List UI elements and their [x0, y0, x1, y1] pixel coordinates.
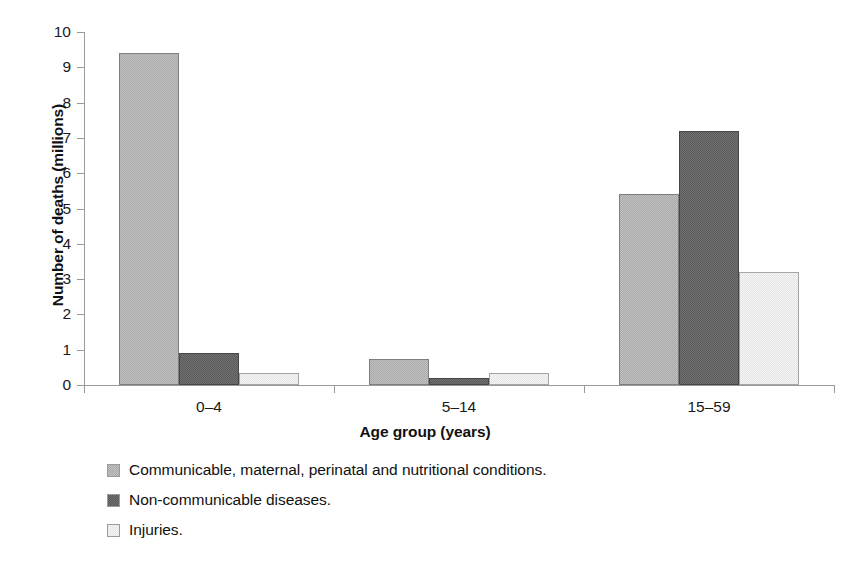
legend-swatch-icon	[107, 494, 120, 507]
legend-label: Injuries.	[129, 521, 183, 539]
y-tick-label: 6	[31, 162, 71, 183]
y-tick: 4	[77, 244, 84, 245]
bar-chart-figure: Number of deaths (millions) 012345678910…	[0, 0, 850, 568]
bar	[429, 378, 489, 385]
y-tick-label: 4	[31, 233, 71, 254]
bar	[179, 353, 239, 385]
y-tick-label: 0	[31, 374, 71, 395]
y-tick: 5	[77, 209, 84, 210]
bar	[119, 53, 179, 385]
legend-swatch-icon	[107, 464, 120, 477]
y-tick-label: 10	[31, 21, 71, 42]
y-tick: 3	[77, 279, 84, 280]
y-tick-label: 8	[31, 92, 71, 113]
y-axis-line	[84, 32, 85, 385]
bar	[239, 373, 299, 385]
y-tick-label: 1	[31, 339, 71, 360]
y-tick-label: 2	[31, 303, 71, 324]
bar	[489, 373, 549, 385]
category-label: 15–59	[687, 398, 730, 416]
x-tick	[84, 385, 85, 393]
legend-item[interactable]: Communicable, maternal, perinatal and nu…	[107, 455, 546, 485]
y-tick: 9	[77, 67, 84, 68]
x-tick	[334, 385, 335, 393]
bar	[619, 194, 679, 385]
legend-label: Non-communicable diseases.	[129, 491, 331, 509]
y-tick: 7	[77, 138, 84, 139]
x-tick	[834, 385, 835, 393]
legend: Communicable, maternal, perinatal and nu…	[107, 455, 546, 545]
y-tick: 2	[77, 314, 84, 315]
x-tick	[584, 385, 585, 393]
bar	[369, 359, 429, 385]
x-axis-title: Age group (years)	[0, 423, 850, 441]
legend-item[interactable]: Non-communicable diseases.	[107, 485, 546, 515]
y-tick-label: 7	[31, 127, 71, 148]
y-tick: 1	[77, 350, 84, 351]
y-tick: 10	[77, 32, 84, 33]
category-label: 5–14	[442, 398, 476, 416]
bar	[679, 131, 739, 385]
category-label: 0–4	[196, 398, 222, 416]
y-tick-label: 3	[31, 268, 71, 289]
y-tick-label: 5	[31, 198, 71, 219]
bar	[739, 272, 799, 385]
x-axis-line	[83, 385, 834, 386]
legend-label: Communicable, maternal, perinatal and nu…	[129, 461, 546, 479]
legend-swatch-icon	[107, 524, 120, 537]
y-tick-label: 9	[31, 56, 71, 77]
y-tick: 0	[77, 385, 84, 386]
y-tick: 8	[77, 103, 84, 104]
plot-area: 012345678910	[84, 32, 834, 385]
y-tick: 6	[77, 173, 84, 174]
legend-item[interactable]: Injuries.	[107, 515, 546, 545]
